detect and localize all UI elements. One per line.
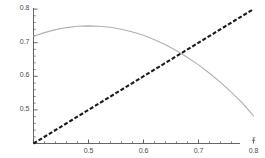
- data-series-identity-line: [34, 9, 254, 143]
- y-axis-major-ticks: [34, 9, 38, 110]
- x-tick-label: 0.5: [78, 147, 100, 154]
- y-tick-label: 0.5: [8, 105, 30, 112]
- plot-area: [0, 0, 265, 158]
- data-series-concave-curve: [34, 26, 254, 116]
- y-tick-label: 0.8: [8, 4, 30, 11]
- chart-container: 0.50.60.70.80.50.60.70.8 x: [0, 0, 265, 158]
- x-tick-label: 0.7: [188, 147, 210, 154]
- y-tick-label: 0.6: [8, 71, 30, 78]
- x-tick-label: 0.8: [243, 147, 265, 154]
- x-tick-label: 0.6: [133, 147, 155, 154]
- y-tick-label: 0.7: [8, 38, 30, 45]
- x-axis-major-ticks: [89, 140, 254, 144]
- x-axis-label: x: [252, 134, 255, 143]
